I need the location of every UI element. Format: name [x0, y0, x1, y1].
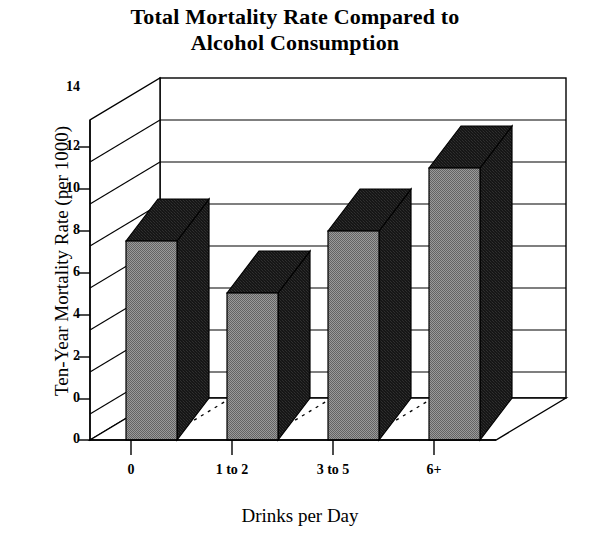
x-tick-label-0: 0 — [86, 462, 176, 478]
x-axis — [90, 440, 496, 455]
bar-1 — [227, 251, 310, 440]
x-axis-title: Drinks per Day — [120, 505, 480, 527]
bar-2 — [328, 189, 411, 440]
y-tick-label-origin: 0 — [44, 431, 80, 447]
bar-3 — [429, 126, 512, 440]
y-axis-title: Ten-Year Mortality Rate (per 1000) — [51, 91, 73, 431]
x-tick-label-2: 3 to 5 — [288, 462, 378, 478]
bar-0 — [126, 199, 209, 440]
x-tick-label-1: 1 to 2 — [187, 462, 277, 478]
chart-root: Total Mortality Rate Compared to Alcohol… — [0, 0, 590, 553]
x-tick-label-3: 6+ — [389, 462, 479, 478]
